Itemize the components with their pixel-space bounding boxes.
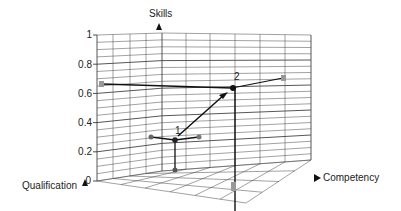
transition-arrow <box>178 92 228 136</box>
point-2-label: 2 <box>234 72 240 82</box>
y-axis-ticks <box>93 35 97 181</box>
competency-axis-label: Competency <box>323 173 379 183</box>
y-tick-1: 1 <box>62 30 92 40</box>
competency-axis-arrow-icon <box>314 174 321 182</box>
point-1-label: 1 <box>175 126 181 136</box>
y-tick-0-4: 0.4 <box>62 118 92 128</box>
floor-grid <box>97 160 311 203</box>
y-tick-0-6: 0.6 <box>62 89 92 99</box>
point-2-projections <box>99 75 286 211</box>
point-1-marker <box>172 137 178 143</box>
skills-axis-label: Skills <box>149 9 172 19</box>
point-2-marker <box>230 85 236 91</box>
y-tick-0-2: 0.2 <box>62 147 92 157</box>
y-tick-0-8: 0.8 <box>62 60 92 70</box>
skills-axis-arrow-icon <box>156 23 162 30</box>
right-wall-grid <box>162 33 311 171</box>
y-tick-0: 0 <box>61 176 91 186</box>
left-wall-grid <box>97 33 162 181</box>
